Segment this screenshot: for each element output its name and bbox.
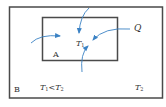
t1-sub: 1 (81, 42, 84, 48)
temperature-t1-label: T1 (76, 40, 85, 48)
heat-q-label: Q (134, 24, 141, 33)
t2-sub: 2 (140, 86, 143, 92)
region-b-label: B (14, 86, 20, 94)
condition-label: T1<T2 (40, 84, 64, 92)
heat-transfer-diagram: A T1 Q B T1<T2 T2 (0, 0, 166, 107)
region-a-label: A (53, 51, 59, 59)
heat-arrow-top-icon (79, 8, 89, 33)
heat-arrow-left-icon (31, 36, 60, 43)
temperature-t2-label: T2 (135, 84, 144, 92)
heat-arrow-bottom-icon (82, 46, 88, 72)
heat-arrow-right-icon (93, 29, 130, 40)
cond-rhs-sub: 2 (61, 86, 64, 92)
